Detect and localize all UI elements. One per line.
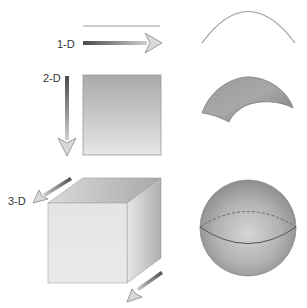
square-2d: [83, 75, 161, 155]
diagram-graphics: [0, 0, 307, 308]
dimensions-diagram: 1-D 2-D 3-D: [0, 0, 307, 308]
curved-surface-2d: [202, 77, 293, 122]
sphere-3d: [200, 180, 296, 276]
arc-1d-curved: [202, 12, 295, 44]
arrow-down-icon: [58, 76, 76, 156]
arrow-right-icon: [83, 33, 162, 53]
cube-3d: [48, 178, 161, 283]
